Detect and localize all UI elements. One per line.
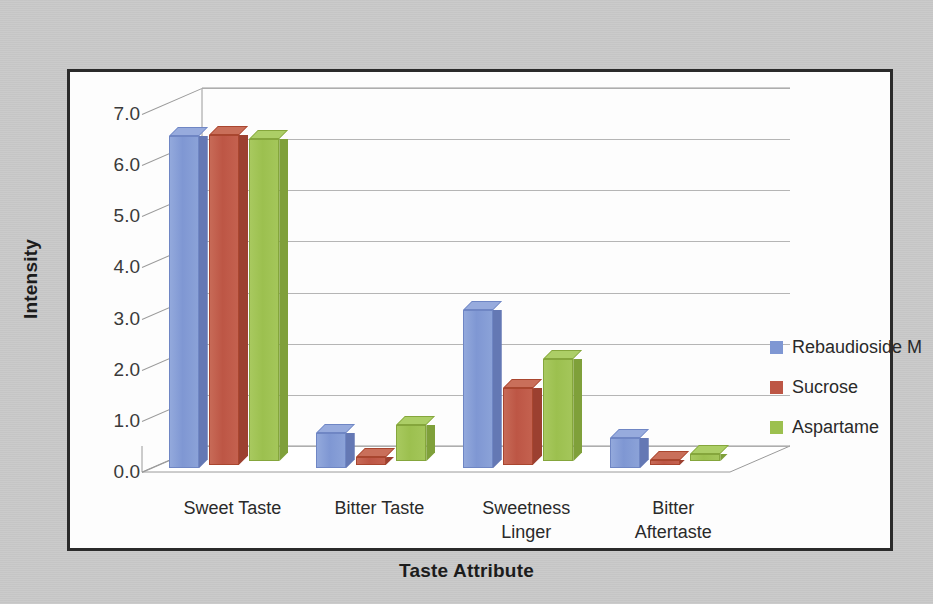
- y-tick-label: 3.0: [88, 308, 140, 330]
- bar: [396, 425, 426, 461]
- bar-side-face: [199, 136, 208, 468]
- gridline: [202, 241, 790, 242]
- bar: [169, 136, 199, 468]
- x-tick-label: Sweet Taste: [152, 496, 312, 520]
- bar-front-face: [503, 388, 533, 465]
- bar: [650, 460, 680, 465]
- page-background: Intensity 7.06.05.04.03.02.01.00.0 Sweet…: [0, 0, 933, 604]
- x-tick-label: Bitter Taste: [299, 496, 459, 520]
- gridline: [202, 139, 790, 140]
- y-tick-label: 4.0: [88, 256, 140, 278]
- y-tick-label: 6.0: [88, 154, 140, 176]
- bar-front-face: [396, 425, 426, 461]
- bar-side-face: [533, 388, 542, 465]
- bar-top-face: [543, 350, 582, 359]
- bar-front-face: [249, 139, 279, 461]
- bar-top-face: [169, 127, 208, 136]
- legend-item: Sucrose: [770, 367, 933, 407]
- plot-area: 7.06.05.04.03.02.01.00.0 Sweet TasteBitt…: [70, 72, 896, 554]
- bar-side-face: [680, 460, 689, 465]
- x-tick-label: Bitter Aftertaste: [593, 496, 753, 544]
- bar-front-face: [463, 310, 493, 469]
- bar-side-face: [239, 135, 248, 465]
- y-tick-label: 5.0: [88, 205, 140, 227]
- y-axis-title: Intensity: [20, 204, 42, 354]
- y-tick-label: 7.0: [88, 103, 140, 125]
- bar: [249, 139, 279, 461]
- gridline-riser: [142, 88, 202, 115]
- bar-top-face: [503, 379, 542, 388]
- bar-top-face: [316, 424, 355, 433]
- gridline: [202, 88, 790, 89]
- legend-label: Aspartame: [792, 417, 879, 438]
- bar: [463, 310, 493, 469]
- bar-side-face: [640, 438, 649, 469]
- bar: [316, 433, 346, 469]
- gridline: [202, 293, 790, 294]
- bar-side-face: [279, 139, 288, 461]
- legend: Rebaudioside MSucroseAspartame: [770, 327, 933, 447]
- y-tick-label: 2.0: [88, 359, 140, 381]
- bar-side-face: [573, 359, 582, 461]
- legend-swatch-icon: [770, 421, 783, 434]
- bar-front-face: [209, 135, 239, 465]
- bar-side-face: [426, 425, 435, 461]
- bar: [610, 438, 640, 469]
- bar: [503, 388, 533, 465]
- bar-top-face: [209, 126, 248, 135]
- legend-item: Aspartame: [770, 407, 933, 447]
- bar-top-face: [356, 448, 395, 457]
- y-tick-label: 1.0: [88, 410, 140, 432]
- y-tick-label: 0.0: [88, 461, 140, 483]
- bar: [356, 457, 386, 465]
- bar: [690, 454, 720, 462]
- bar-side-face: [346, 433, 355, 469]
- bar-front-face: [650, 460, 680, 465]
- gridline: [202, 190, 790, 191]
- bar-top-face: [690, 445, 729, 454]
- bar: [543, 359, 573, 461]
- bar-front-face: [316, 433, 346, 469]
- bar: [209, 135, 239, 465]
- bar-side-face: [493, 310, 502, 469]
- bar-front-face: [690, 454, 720, 462]
- bar-side-face: [386, 457, 395, 465]
- legend-item: Rebaudioside M: [770, 327, 933, 367]
- bar-top-face: [610, 429, 649, 438]
- chart-frame: 7.06.05.04.03.02.01.00.0 Sweet TasteBitt…: [67, 69, 893, 551]
- x-tick-label: Sweetness Linger: [446, 496, 606, 544]
- bar-top-face: [396, 416, 435, 425]
- bar-front-face: [356, 457, 386, 465]
- legend-label: Rebaudioside M: [792, 337, 922, 358]
- bar-top-face: [249, 130, 288, 139]
- y-axis-tick-labels: 7.06.05.04.03.02.01.00.0: [78, 72, 140, 554]
- bar-front-face: [543, 359, 573, 461]
- bar-side-face: [720, 454, 729, 462]
- legend-swatch-icon: [770, 341, 783, 354]
- bar-top-face: [463, 301, 502, 310]
- bar-front-face: [169, 136, 199, 468]
- bar-front-face: [610, 438, 640, 469]
- x-axis-title: Taste Attribute: [0, 560, 933, 582]
- bar-top-face: [650, 451, 689, 460]
- legend-label: Sucrose: [792, 377, 858, 398]
- legend-swatch-icon: [770, 381, 783, 394]
